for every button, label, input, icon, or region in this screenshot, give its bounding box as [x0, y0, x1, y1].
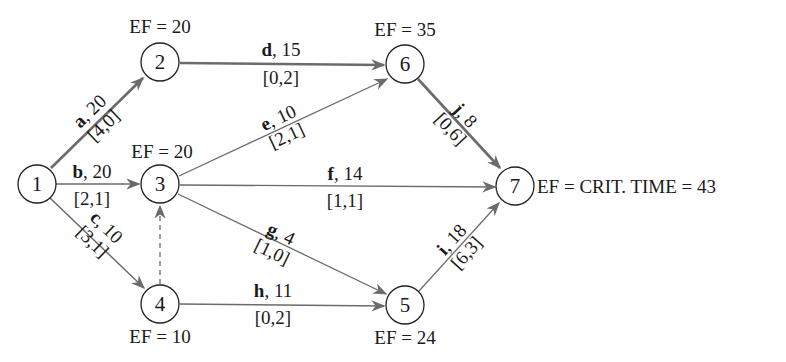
edge-f-bracket: [1,1]: [327, 190, 363, 211]
edge-h-label: h, 11: [254, 280, 292, 301]
edge-d-label: d, 15: [261, 39, 300, 60]
edges: [50, 63, 500, 306]
node-4: 4: [141, 285, 179, 323]
node-7: 7: [496, 167, 534, 205]
ef-node-5: EF = 24: [374, 327, 436, 348]
edge-b-label: b, 20: [72, 161, 111, 182]
ef-node-7-critical-time: EF = CRIT. TIME = 43: [537, 176, 716, 197]
edge-d-bracket: [0,2]: [263, 67, 299, 88]
node-2: 2: [141, 43, 179, 81]
node-4-label: 4: [155, 292, 166, 316]
edge-h: [180, 304, 384, 306]
node-7-label: 7: [510, 174, 521, 198]
edge-h-bracket: [0,2]: [255, 307, 291, 328]
node-5: 5: [386, 286, 424, 324]
edge-f: [180, 185, 495, 187]
node-3: 3: [141, 165, 179, 203]
node-1-label: 1: [32, 172, 43, 196]
node-3-label: 3: [155, 172, 166, 196]
node-5-label: 5: [400, 293, 411, 317]
edge-d: [180, 63, 384, 65]
node-6-label: 6: [400, 52, 411, 76]
node-1: 1: [18, 165, 56, 203]
ef-node-6: EF = 35: [374, 19, 435, 40]
network-diagram: 1 2 3 4 5 6 7 EF = 20 EF = 20 EF =: [0, 0, 786, 362]
edge-f-label: f, 14: [328, 163, 363, 184]
edge-b-bracket: [2,1]: [74, 188, 110, 209]
ef-node-4: EF = 10: [129, 326, 190, 347]
node-6: 6: [386, 45, 424, 83]
ef-node-3: EF = 20: [131, 141, 192, 162]
node-2-label: 2: [155, 50, 166, 74]
ef-node-2: EF = 20: [129, 16, 190, 37]
